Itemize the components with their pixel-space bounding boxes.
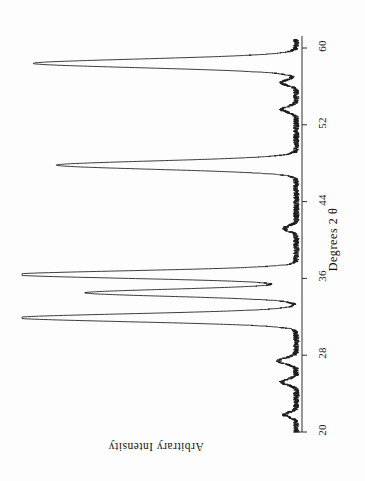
y-axis-title: Arbitrary Intensity [86,441,226,453]
diffraction-curve [22,39,299,432]
x-axis-title: Degrees 2 θ [326,185,341,295]
x-tick-label-28: 28 [316,342,328,364]
diffraction-trace [22,39,299,432]
x-tick-label-20: 20 [316,419,328,441]
xrd-plot [0,0,365,481]
x-tick-label-60: 60 [316,35,328,57]
x-tick-label-52: 52 [316,112,328,134]
figure-panel: 202836445260 Degrees 2 θ Arbitrary Inten… [0,0,365,481]
